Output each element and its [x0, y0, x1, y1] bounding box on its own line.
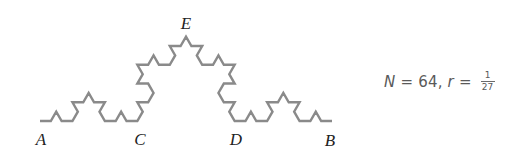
point-label-d: D: [230, 131, 242, 148]
point-label-c: C: [134, 131, 145, 148]
similarity-equation: N = 64, r = 127: [384, 71, 495, 92]
n-value: 64,: [418, 73, 442, 91]
point-label-a: A: [36, 131, 46, 148]
r-denominator: 27: [481, 81, 495, 92]
equals-sign: =: [395, 73, 418, 91]
koch-curve-figure: A C D B E N = 64, r = 127: [0, 0, 532, 161]
koch-curve-path: [40, 37, 332, 121]
point-label-b: B: [325, 132, 335, 149]
r-fraction: 127: [481, 71, 495, 92]
r-numerator: 1: [484, 71, 492, 81]
point-label-e: E: [181, 15, 191, 32]
equals-sign: =: [454, 73, 477, 91]
n-variable: N: [384, 73, 395, 91]
